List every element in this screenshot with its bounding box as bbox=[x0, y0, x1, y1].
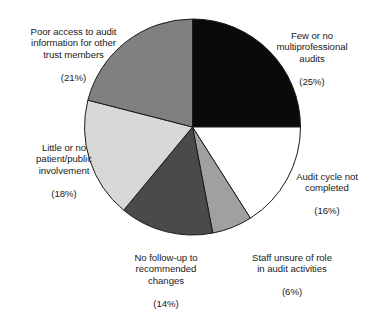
slice-label-text: No follow-up to recommended changes bbox=[104, 252, 228, 287]
slice-label-text: Staff unsure of role in audit activities bbox=[222, 252, 362, 275]
slice-label-percent: (16%) bbox=[272, 205, 382, 217]
slice-label-little-or-no-patient-public-involvement: Little or no patient/public involvement … bbox=[2, 130, 126, 211]
slice-label-text: Poor access to audit information for oth… bbox=[2, 26, 145, 61]
slice-label-text: Audit cycle not completed bbox=[272, 171, 382, 194]
slice-label-percent: (14%) bbox=[104, 298, 228, 310]
slice-label-staff-unsure-of-role: Staff unsure of role in audit activities… bbox=[222, 240, 362, 310]
slice-label-text: Little or no patient/public involvement bbox=[2, 142, 126, 177]
slice-label-percent: (21%) bbox=[2, 72, 145, 84]
slice-label-percent: (18%) bbox=[2, 188, 126, 200]
slice-label-text: Few or no multiprofessional audits bbox=[246, 30, 378, 65]
slice-label-no-follow-up-to-recommended-changes: No follow-up to recommended changes (14%… bbox=[104, 240, 228, 313]
slice-label-poor-access-to-audit-information: Poor access to audit information for oth… bbox=[2, 14, 145, 95]
slice-label-percent: (25%) bbox=[246, 76, 378, 88]
slice-label-percent: (6%) bbox=[222, 286, 362, 298]
slice-label-audit-cycle-not-completed: Audit cycle not completed (16%) bbox=[272, 159, 382, 229]
slice-label-few-or-no-multiprofessional-audits: Few or no multiprofessional audits (25%) bbox=[246, 18, 378, 99]
